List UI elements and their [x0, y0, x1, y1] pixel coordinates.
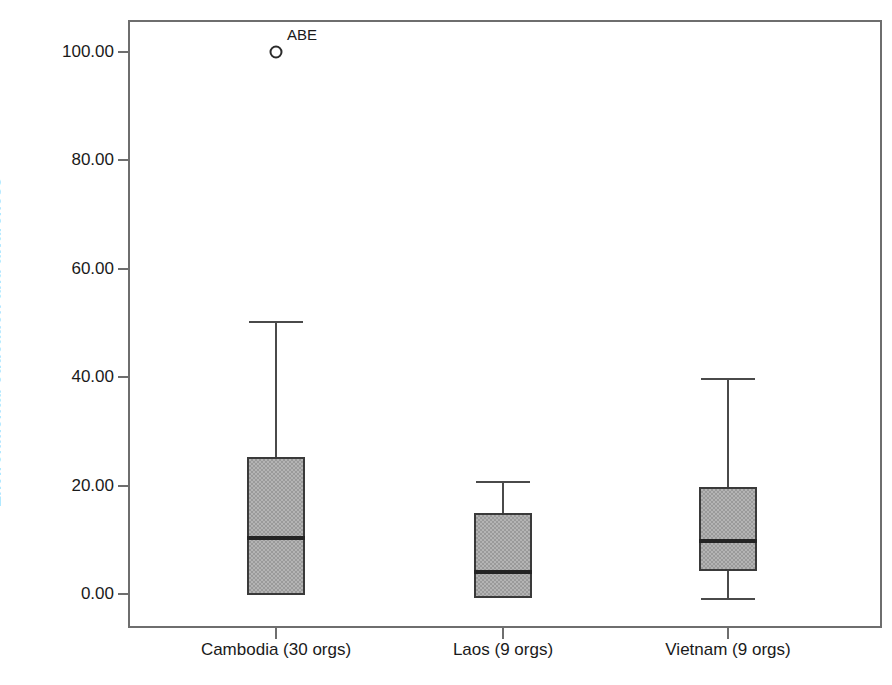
whisker-upper-cap — [701, 378, 755, 380]
whisker-upper-line — [727, 378, 729, 487]
box-iqr — [474, 513, 532, 598]
whisker-upper-line — [275, 321, 277, 457]
y-axis-tick-labels: 0.0020.0040.0060.0080.00100.00 — [18, 0, 114, 685]
y-axis-tick-label: 0.00 — [18, 584, 114, 604]
boxplot-figure: Environmental education and awareness 0.… — [0, 0, 892, 685]
whisker-upper-cap — [476, 481, 530, 483]
outlier-marker — [270, 46, 283, 59]
whisker-upper-cap — [249, 321, 303, 323]
x-axis-tick-label: Cambodia (30 orgs) — [201, 640, 351, 660]
y-axis-tick-label: 100.00 — [18, 42, 114, 62]
y-axis-tick-label: 60.00 — [18, 259, 114, 279]
whisker-upper-line — [502, 481, 504, 513]
x-axis-tick-label: Vietnam (9 orgs) — [665, 640, 790, 660]
median-line — [474, 570, 532, 574]
plot-area: ABE — [128, 20, 882, 628]
box-iqr — [699, 487, 757, 571]
median-line — [247, 536, 305, 540]
whisker-lower-line — [727, 571, 729, 598]
outlier-label: ABE — [287, 26, 317, 43]
y-axis-title-text: Environmental education and awareness — [0, 178, 5, 508]
whisker-lower-cap — [701, 598, 755, 600]
y-axis-tick-label: 20.00 — [18, 476, 114, 496]
box-iqr — [247, 457, 305, 595]
x-axis-tick-mark — [502, 628, 504, 639]
x-axis-tick-mark — [727, 628, 729, 639]
median-line — [699, 539, 757, 543]
y-axis-tick-label: 80.00 — [18, 150, 114, 170]
x-axis-tick-mark — [275, 628, 277, 639]
x-axis-tick-label: Laos (9 orgs) — [453, 640, 553, 660]
y-axis-tick-label: 40.00 — [18, 367, 114, 387]
